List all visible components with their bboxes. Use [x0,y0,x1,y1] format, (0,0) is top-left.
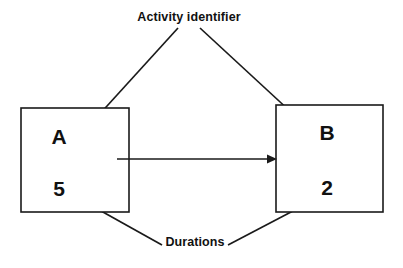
durations-label: Durations [165,235,224,249]
node-a-letter: A [51,125,66,148]
diagram-canvas: A 5 B 2 Activity identifier Durations [0,0,403,268]
node-b-letter: B [319,121,334,144]
node-b-duration: 2 [321,176,333,199]
activity-identifier-label: Activity identifier [137,10,240,24]
network-diagram: A 5 B 2 Activity identifier Durations [0,0,403,268]
node-a-box[interactable] [21,108,129,212]
node-a-duration: 5 [53,177,65,200]
